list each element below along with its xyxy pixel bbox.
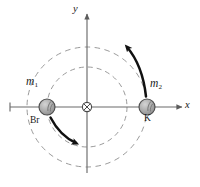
x-axis-label: x [185, 100, 190, 111]
center-of-mass-icon [82, 102, 91, 111]
motion-arrow-k [127, 47, 146, 97]
mass-2-element-label: K [144, 114, 151, 124]
molecule-rotation-figure: m1 m2 Br K x y [0, 0, 200, 187]
mass-2-label: m2 [150, 78, 162, 91]
mass-1-label: m1 [26, 76, 38, 89]
figure-canvas [0, 0, 200, 187]
mass-1-sphere [39, 99, 55, 115]
mass-1-element-label: Br [30, 116, 40, 126]
y-axis-label: y [73, 4, 78, 15]
